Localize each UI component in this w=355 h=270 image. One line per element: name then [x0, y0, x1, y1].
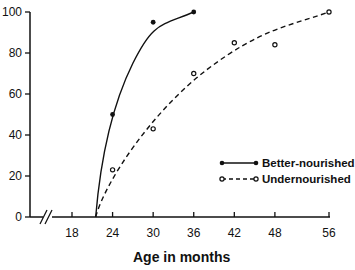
y-tick-label: 80 — [9, 46, 23, 60]
y-tick-label: 0 — [15, 210, 22, 224]
open-circle-icon — [220, 177, 224, 181]
plot-area — [96, 10, 331, 217]
better-nourished-point — [110, 112, 115, 117]
undernourished-point — [110, 168, 114, 172]
undernourished-point — [232, 41, 236, 45]
growth-chart: 020406080100 18243036424856 Age in month… — [0, 0, 355, 270]
legend-item-undernourished: Undernourished — [220, 173, 351, 185]
undernourished-point — [192, 71, 196, 75]
x-axis: 18243036424856 Age in months — [30, 210, 336, 265]
legend-label: Undernourished — [262, 173, 351, 185]
undernourished-line — [96, 12, 329, 217]
undernourished-point — [151, 127, 155, 131]
legend-item-better-nourished: Better-nourished — [220, 157, 355, 169]
x-axis-title: Age in months — [133, 249, 230, 265]
undernourished-point — [273, 43, 277, 47]
x-tick-label: 18 — [65, 226, 79, 240]
y-tick-label: 100 — [2, 5, 22, 19]
y-axis: 020406080100 — [2, 5, 30, 224]
y-tick-label: 20 — [9, 169, 23, 183]
better-nourished-point — [191, 10, 196, 15]
x-tick-label: 24 — [106, 226, 120, 240]
filled-circle-icon — [254, 161, 259, 166]
x-tick-label: 48 — [268, 226, 282, 240]
x-tick-label: 30 — [146, 226, 160, 240]
x-tick-label: 42 — [228, 226, 242, 240]
x-tick-label: 36 — [187, 226, 201, 240]
legend: Better-nourished Undernourished — [220, 157, 355, 185]
legend-label: Better-nourished — [262, 157, 355, 169]
undernourished-point — [327, 10, 331, 14]
x-tick-label: 56 — [322, 226, 336, 240]
y-tick-label: 60 — [9, 87, 23, 101]
y-tick-label: 40 — [9, 128, 23, 142]
filled-circle-icon — [220, 161, 225, 166]
open-circle-icon — [254, 177, 258, 181]
better-nourished-point — [151, 20, 156, 25]
